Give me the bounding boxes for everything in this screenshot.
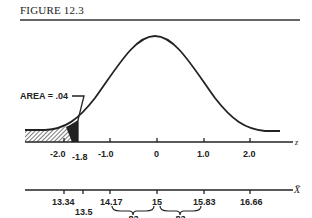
xbar-tick-label: 14.17 <box>100 197 123 207</box>
z-tick-label: 2.0 <box>243 149 256 159</box>
z-tick-label: -1.8 <box>72 152 88 162</box>
brace-label: .83 <box>126 214 139 218</box>
xbar-axis-label: X̄ <box>293 184 301 195</box>
brace-label: .83 <box>173 214 186 218</box>
normal-curve-diagram: AREA = .04 z -2.0 -1.8 -1.0 0 1.0 2.0 X̄… <box>0 0 312 218</box>
xbar-tick-label: 15 <box>152 197 162 207</box>
area-label: AREA = .04 <box>20 91 68 101</box>
z-tick-label: -2.0 <box>50 149 66 159</box>
normal-curve <box>25 36 280 131</box>
xbar-tick-label: 15.83 <box>193 197 216 207</box>
z-tick-label: 0 <box>154 149 159 159</box>
z-ticks <box>64 120 250 142</box>
xbar-tick-label: 13.5 <box>75 207 93 217</box>
xbar-tick-label: 16.66 <box>240 197 263 207</box>
z-tick-label: -1.0 <box>98 149 114 159</box>
z-tick-label: 1.0 <box>197 149 210 159</box>
z-axis-label: z <box>294 138 299 147</box>
xbar-tick-label: 13.34 <box>52 197 75 207</box>
